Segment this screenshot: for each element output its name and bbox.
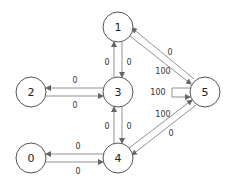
edge-label-5-5: 100 (150, 88, 165, 97)
edge-4-to-5 (129, 100, 192, 148)
edge-label-2-3: 0 (72, 101, 77, 110)
edge-label-5-1: 0 (167, 48, 172, 57)
edge-label-4-0: 0 (75, 142, 80, 151)
flow-network-diagram: 0 0 0 0 0 0 0 0 0 100 100 100 0 0 (0, 0, 227, 184)
node-3: 3 (103, 77, 133, 107)
svg-text:0: 0 (28, 152, 35, 165)
edge-label-3-2: 0 (72, 76, 77, 85)
edge-label-3-4: 0 (126, 122, 131, 131)
edge-1-to-5 (130, 36, 191, 84)
edge-label-1-5: 100 (155, 67, 170, 76)
svg-text:3: 3 (115, 86, 122, 99)
svg-text:1: 1 (115, 21, 122, 34)
node-5: 5 (190, 77, 220, 107)
svg-text:2: 2 (28, 86, 35, 99)
edge-label-0-4: 0 (75, 167, 80, 176)
graph-svg: 0 0 0 0 0 0 0 0 0 100 100 100 0 0 (0, 0, 227, 184)
node-4: 4 (103, 143, 133, 173)
svg-text:4: 4 (115, 152, 122, 165)
svg-text:5: 5 (202, 86, 209, 99)
edge-label-5-4: 0 (168, 129, 173, 138)
edge-label-3-1: 0 (104, 58, 109, 67)
edge-5-self-loop (172, 88, 190, 97)
edge-label-1-3: 0 (126, 58, 131, 67)
node-2: 2 (16, 77, 46, 107)
node-1: 1 (103, 12, 133, 42)
node-0: 0 (16, 143, 46, 173)
edge-label-4-5: 100 (155, 110, 170, 119)
edge-label-4-3: 0 (104, 122, 109, 131)
